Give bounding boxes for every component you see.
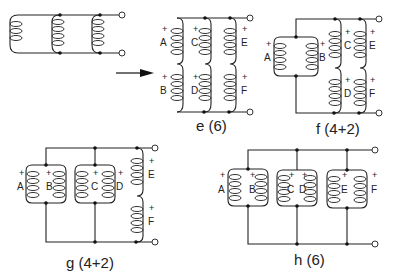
svg-text:+: + — [345, 75, 350, 85]
terminal — [119, 50, 125, 56]
svg-text:+: + — [162, 72, 167, 82]
winding-label: E — [241, 37, 248, 48]
winding-label: F — [148, 216, 154, 227]
circuit-h: + A + B + C + D + E + F h (6) — [218, 147, 378, 268]
circuit-g: + A + B + C + D + E + F g (4+2) — [17, 145, 158, 271]
svg-text:+: + — [118, 168, 123, 178]
svg-text:+: + — [266, 39, 271, 49]
svg-text:+: + — [46, 168, 51, 178]
svg-text:+: + — [149, 156, 154, 166]
svg-text:+: + — [370, 27, 375, 37]
svg-text:+: + — [250, 170, 255, 180]
winding-label: A — [17, 181, 24, 192]
svg-text:+: + — [289, 170, 294, 180]
svg-text:+: + — [193, 72, 198, 82]
winding-label: B — [160, 85, 167, 96]
svg-text:+: + — [220, 170, 225, 180]
circuit-caption: g (4+2) — [66, 254, 114, 271]
winding-label: F — [371, 184, 377, 195]
svg-text:+: + — [370, 75, 375, 85]
winding-label: C — [191, 37, 198, 48]
svg-text:+: + — [93, 168, 98, 178]
winding-label: B — [249, 184, 256, 195]
winding-label: C — [344, 40, 351, 51]
svg-text:+: + — [345, 27, 350, 37]
svg-text:+: + — [242, 72, 247, 82]
winding-label: C — [287, 184, 294, 195]
winding-label: A — [264, 52, 271, 63]
circuit-caption: f (4+2) — [316, 120, 360, 137]
winding-label: A — [218, 184, 225, 195]
winding-label: D — [116, 181, 123, 192]
winding-label: A — [160, 37, 167, 48]
terminal — [119, 12, 125, 18]
winding-label: C — [91, 181, 98, 192]
svg-text:+: + — [302, 170, 307, 180]
transformer-connections-diagram: + A + B + C + D + E + F e (6) — [0, 0, 394, 279]
svg-text:+: + — [320, 39, 325, 49]
svg-text:+: + — [162, 24, 167, 34]
circuit-e: + A + B + C + D + E + F e (6) — [160, 15, 253, 134]
svg-text:+: + — [149, 203, 154, 213]
circuit-caption: h (6) — [294, 251, 325, 268]
svg-text:+: + — [342, 170, 347, 180]
svg-text:+: + — [372, 170, 377, 180]
svg-text:+: + — [19, 168, 24, 178]
winding-label: E — [341, 184, 348, 195]
circuit-caption: e (6) — [196, 117, 227, 134]
winding-label: E — [148, 169, 155, 180]
winding-label: D — [299, 184, 306, 195]
winding-label: D — [344, 88, 351, 99]
circuit-f: + A + B + C + D + E + F f (4+2) — [264, 16, 382, 137]
svg-text:+: + — [193, 24, 198, 34]
circuit-original — [10, 12, 125, 56]
right-arrow-icon — [116, 69, 154, 77]
winding-label: E — [369, 40, 376, 51]
winding-label: B — [319, 52, 326, 63]
winding-label: B — [46, 181, 53, 192]
svg-text:+: + — [242, 24, 247, 34]
winding-label: F — [369, 88, 375, 99]
winding-label: D — [191, 85, 198, 96]
winding-label: F — [241, 85, 247, 96]
